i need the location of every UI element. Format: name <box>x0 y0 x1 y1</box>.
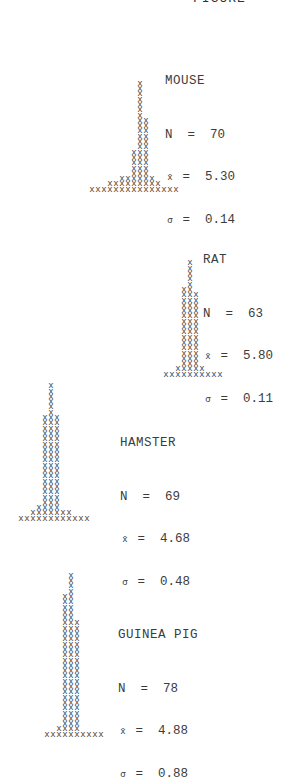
sd-value: = 0.48 <box>138 575 191 589</box>
mean-value: = 4.68 <box>138 532 191 546</box>
mean-value: = 4.88 <box>136 724 189 738</box>
mean-symbol: x̄ <box>120 533 130 547</box>
histogram-guinea-pig: xxxxxxxxxxxxxxxxxxxxxxxxxxxxxxxxxxxxxxxx… <box>44 560 124 738</box>
n-value: N = 63 <box>203 307 273 321</box>
n-value: N = 69 <box>120 490 190 504</box>
species-label: MOUSE <box>165 74 235 88</box>
mean-value: = 5.30 <box>183 170 236 184</box>
sigma-symbol: σ <box>203 393 213 407</box>
sd-value: = 0.11 <box>221 392 274 406</box>
figure-header: FIGURE <box>193 0 246 6</box>
stats-hamster: HAMSTER N = 69 x̄ = 4.68 σ = 0.48 <box>120 408 190 604</box>
stats-rat: RAT N = 63 x̄ = 5.80 σ = 0.11 <box>203 225 273 421</box>
species-label: GUINEA PIG <box>118 628 198 642</box>
sd-value: = 0.88 <box>136 767 189 781</box>
mean-symbol: x̄ <box>203 350 213 364</box>
tally-column: xxxxxxxxxxxxxxxxxxxxxx <box>74 621 80 738</box>
stats-guinea-pig: GUINEA PIG N = 78 x̄ = 4.88 σ = 0.88 <box>118 600 198 781</box>
n-value: N = 78 <box>118 682 198 696</box>
species-label: HAMSTER <box>120 436 190 450</box>
histogram-hamster: xxxxxxxxxxxxxxxxxxxxxxxxxxxxxxxxxxxxxxxx… <box>18 380 118 522</box>
sigma-symbol: σ <box>118 768 128 781</box>
mean-value: = 5.80 <box>221 349 274 363</box>
tally-column: x <box>84 517 90 522</box>
n-value: N = 70 <box>165 128 235 142</box>
tally-column: xxxxxxxxxxxxxxxx <box>193 293 199 378</box>
tally-column: x <box>98 733 104 738</box>
mean-symbol: x̄ <box>118 725 128 739</box>
tally-column: xxxxxxxxxxxxxxxxxxxx <box>54 416 60 522</box>
species-label: RAT <box>203 253 273 267</box>
mean-symbol: x̄ <box>165 171 175 185</box>
